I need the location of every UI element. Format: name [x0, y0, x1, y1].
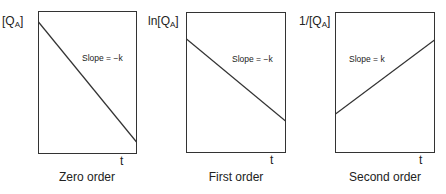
- x-axis-label: t: [419, 153, 422, 167]
- slope-annotation: Slope = k: [349, 54, 385, 64]
- panel-caption: Second order: [325, 170, 445, 184]
- trend-line: [0, 0, 446, 194]
- second-order-panel: 1/[QA] Slope = k t Second order: [0, 0, 446, 194]
